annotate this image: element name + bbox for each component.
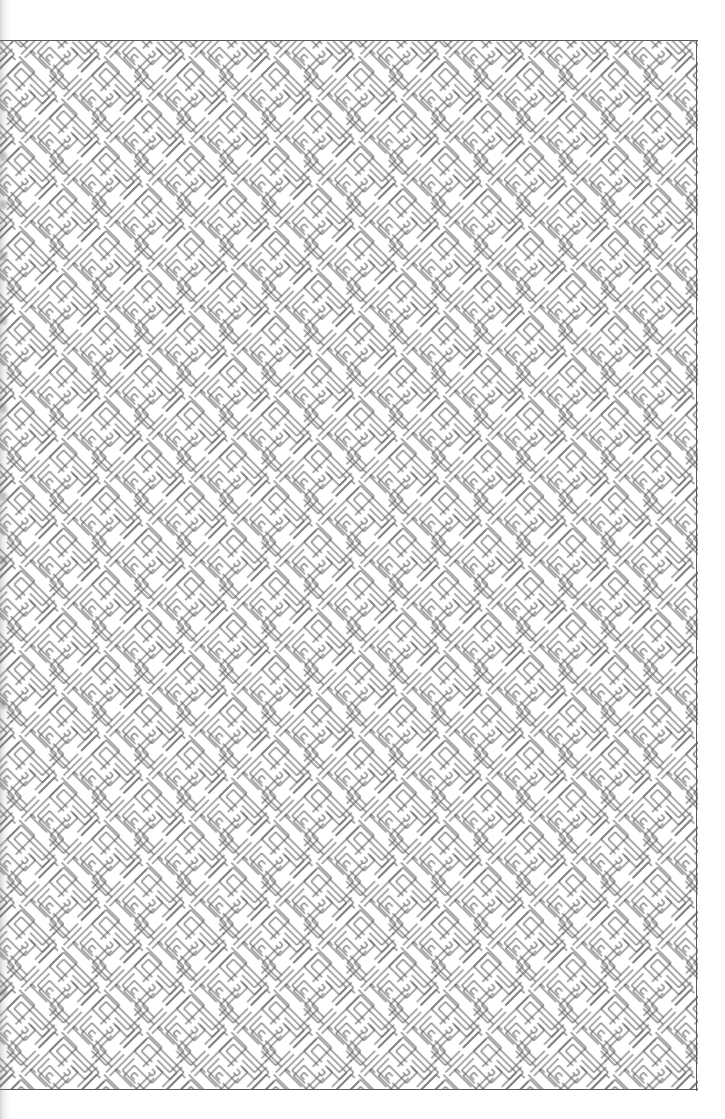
paper-sheet — [0, 0, 725, 1119]
maze-pattern-artwork — [0, 33, 700, 1097]
page-root — [0, 0, 725, 1119]
frame-rule-right — [696, 40, 697, 1091]
frame-rule-bottom — [0, 1089, 698, 1090]
margin-top — [0, 0, 725, 40]
frame-rule-top — [0, 40, 698, 41]
pattern-layer-secondary — [0, 33, 700, 1097]
margin-right — [698, 0, 725, 1119]
margin-bottom — [0, 1090, 725, 1119]
maze-pattern-svg — [0, 33, 700, 1097]
